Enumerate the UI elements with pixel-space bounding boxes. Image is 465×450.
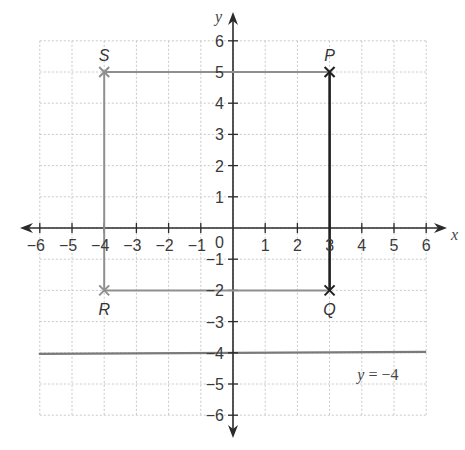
coordinate-plane-diagram: −6−5−4−3−2−1123456−6−5−4−3−2−11234560xyS… [0,0,465,450]
y-tick-label: −6 [206,407,224,424]
y-tick-label: −2 [206,282,224,299]
point-label-p: P [324,47,335,64]
x-axis-label: x [450,226,458,243]
x-tick-label: −4 [91,237,109,254]
y-tick-label: −5 [206,376,224,393]
x-tick-label: −1 [188,237,206,254]
y-tick-label: 3 [215,126,224,143]
labels: −6−5−4−3−2−1123456−6−5−4−3−2−11234560xyS… [27,8,458,424]
y-axis-label: y [213,8,223,26]
y-tick-label: 1 [215,189,224,206]
x-tick-label: −5 [59,237,77,254]
y-tick-label: 4 [215,95,224,112]
x-tick-label: 1 [261,237,270,254]
y-tick-label: −4 [206,345,224,362]
y-tick-label: 5 [215,64,224,81]
origin-label: 0 [215,234,224,251]
x-tick-label: 2 [293,237,302,254]
line-equation-label: y = −4 [355,366,398,384]
y-tick-label: −3 [206,314,224,331]
x-tick-label: −6 [27,237,45,254]
x-tick-label: 6 [422,237,431,254]
x-tick-label: 3 [325,237,334,254]
point-label-q: Q [323,301,335,318]
y-tick-label: 6 [215,33,224,50]
point-label-s: S [99,47,110,64]
y-tick-label: −1 [206,251,224,268]
y-tick-label: 2 [215,158,224,175]
point-label-r: R [98,301,110,318]
x-tick-label: 5 [390,237,399,254]
x-tick-label: −3 [123,237,141,254]
x-tick-label: 4 [357,237,366,254]
x-tick-label: −2 [155,237,173,254]
